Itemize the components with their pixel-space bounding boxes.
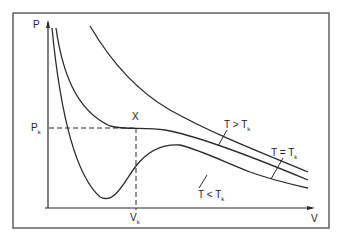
pv-diagram: P V Pk Vk X T > Tk T = Tk T < Tk (0, 0, 344, 249)
critical-volume-label: Vk (130, 212, 141, 225)
leader-below (199, 175, 207, 188)
critical-pressure-label: Pk (31, 122, 42, 135)
y-axis-arrow-icon (46, 20, 50, 28)
label-below-critical: T < Tk (198, 189, 225, 202)
y-axis-label: P (33, 19, 40, 30)
diagram-frame (13, 13, 329, 228)
label-above-critical: T > Tk (224, 119, 251, 132)
x-axis-label: V (311, 213, 318, 224)
x-axis-arrow-icon (307, 206, 315, 210)
critical-point-label: X (132, 111, 139, 122)
